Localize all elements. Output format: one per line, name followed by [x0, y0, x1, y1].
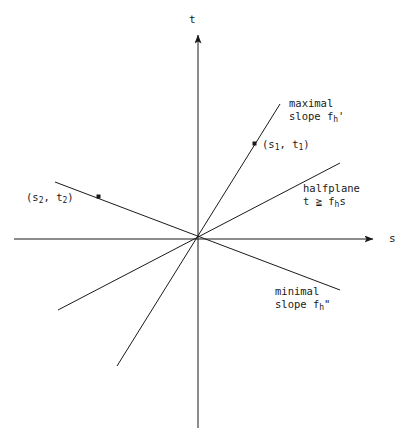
point-label-s2t2-comma: , t — [43, 191, 62, 203]
minimal-slope-label-line2: slope fh" — [275, 298, 330, 311]
halfplane-label-inequality: t ≧ f — [303, 195, 335, 207]
minimal-slope-label-text: slope f — [275, 298, 319, 310]
point-marker-s2t2 — [97, 195, 101, 199]
minimal-slope-label: minimal slope fh" — [275, 285, 330, 311]
point-label-s1t1: (s1, t1) — [262, 138, 310, 151]
point-label-s2t2-open: (s — [26, 191, 39, 203]
plot-canvas — [0, 0, 412, 446]
slope-halfplane-figure: t s maximal slope fh' (s1, t1) halfplane… — [0, 0, 412, 446]
point-label-s1t1-close: ) — [303, 138, 309, 150]
halfplane-label-variable: s — [339, 195, 345, 207]
point-label-s1t1-open: (s — [262, 138, 275, 150]
halfplane-label-line2: t ≧ fhs — [303, 195, 360, 208]
maximal-slope-label-line1: maximal — [289, 97, 333, 109]
maximal-slope-label-line2: slope fh' — [289, 110, 344, 123]
point-label-s2t2-close: ) — [67, 191, 73, 203]
point-label-s1t1-comma: , t — [279, 138, 298, 150]
halfplane-label-line1: halfplane — [303, 182, 360, 194]
halfplane-label: halfplane t ≧ fhs — [303, 182, 360, 208]
maximal-slope-label-text: slope f — [289, 110, 333, 122]
maximal-slope-label-prime: ' — [338, 110, 344, 122]
minimal-slope-label-line1: minimal — [275, 285, 319, 297]
point-label-s2t2: (s2, t2) — [26, 191, 74, 204]
minimal-slope-label-double-prime: " — [324, 298, 330, 310]
maximal-slope-label: maximal slope fh' — [289, 97, 344, 123]
s-axis-label: s — [389, 232, 396, 245]
point-marker-s1t1 — [253, 142, 257, 146]
t-axis-label: t — [189, 13, 196, 26]
